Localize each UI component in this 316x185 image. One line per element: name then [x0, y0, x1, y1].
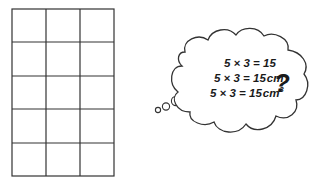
thought-dot-small [155, 107, 160, 112]
question-mark: ? [274, 68, 290, 98]
diagram-canvas: 5 × 3 = 15 5 × 3 = 15cm 5 × 3 = 15cm3 ? [0, 0, 316, 185]
grid-outline [12, 9, 114, 176]
equation-1: 5 × 3 = 15 [224, 57, 276, 69]
thought-dot-medium [162, 103, 169, 110]
grid-rectangle [12, 9, 114, 176]
equation-2: 5 × 3 = 15cm [214, 72, 283, 84]
